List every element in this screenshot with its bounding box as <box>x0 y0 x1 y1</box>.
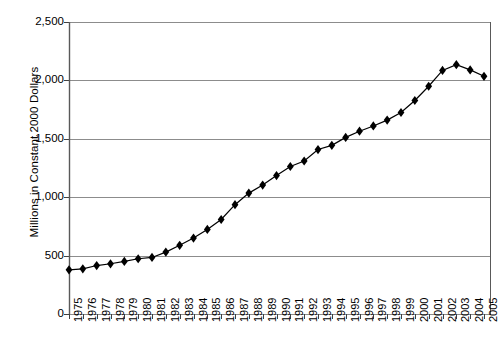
x-axis-tick-label: 2001 <box>433 298 444 322</box>
x-axis-tick-label: 1979 <box>128 298 139 322</box>
x-axis-tick-label: 1987 <box>239 298 250 322</box>
x-axis-tick-label: 1995 <box>350 298 361 322</box>
x-axis-tick-label: 1988 <box>253 298 264 322</box>
x-axis-tick-label: 1990 <box>281 298 292 322</box>
x-axis-tick-label: 2004 <box>474 298 485 322</box>
x-axis-tick-label: 1985 <box>211 298 222 322</box>
x-axis-tick-label: 1978 <box>115 298 126 322</box>
x-axis-tick-label: 1982 <box>170 298 181 322</box>
x-axis-tick-label: 1983 <box>184 298 195 322</box>
x-axis-tick-labels: 1975197619771978197919801981198219831984… <box>0 0 498 353</box>
x-axis-tick-label: 1984 <box>198 298 209 322</box>
x-axis-tick-label: 1996 <box>364 298 375 322</box>
x-axis-tick-label: 1989 <box>267 298 278 322</box>
x-axis-tick-label: 1994 <box>336 298 347 322</box>
x-axis-tick-label: 1981 <box>156 298 167 322</box>
x-axis-tick-label: 2002 <box>447 298 458 322</box>
x-axis-tick-label: 1980 <box>142 298 153 322</box>
x-axis-tick-label: 1997 <box>377 298 388 322</box>
x-axis-tick-label: 1998 <box>391 298 402 322</box>
x-axis-tick-label: 1986 <box>225 298 236 322</box>
chart-container: Millions in Constant 2000 Dollars 2,5002… <box>0 0 498 353</box>
x-axis-tick-label: 2005 <box>488 298 498 322</box>
x-axis-tick-label: 1991 <box>294 298 305 322</box>
x-axis-tick-label: 1977 <box>101 298 112 322</box>
x-axis-tick-label: 1993 <box>322 298 333 322</box>
x-axis-tick-label: 1976 <box>87 298 98 322</box>
x-axis-tick-label: 1999 <box>405 298 416 322</box>
x-axis-tick-label: 2000 <box>419 298 430 322</box>
x-axis-tick-label: 1992 <box>308 298 319 322</box>
x-axis-tick-label: 2003 <box>460 298 471 322</box>
x-axis-tick-label: 1975 <box>73 298 84 322</box>
